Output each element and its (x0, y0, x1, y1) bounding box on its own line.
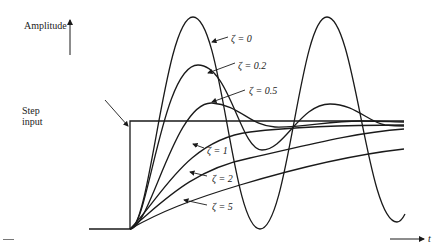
leader-zeta-0.5 (212, 90, 245, 102)
corner-mark (3, 239, 14, 240)
x-axis-label: t (428, 233, 431, 244)
step-input-label-line1: Step (22, 105, 43, 116)
curve-zeta-5 (130, 149, 404, 229)
label-zeta-0.2: ζ = 0.2 (238, 60, 266, 71)
leader-zeta-0.2 (208, 63, 235, 73)
curve-zeta-0 (130, 17, 405, 229)
step-response-diagram: Amplitude Step input ζ = 0 ζ = 0.2 ζ = 0… (0, 0, 442, 247)
label-zeta-5: ζ = 5 (212, 201, 233, 212)
label-zeta-0.5: ζ = 0.5 (249, 85, 277, 96)
y-axis-label: Amplitude (24, 20, 67, 31)
label-zeta-0: ζ = 0 (231, 33, 252, 44)
step-input-label-line2: input (22, 116, 43, 127)
label-zeta-1: ζ = 1 (207, 145, 228, 156)
step-input-label: Step input (22, 105, 43, 127)
curve-zeta-0.5 (130, 103, 404, 229)
leader-zeta-1 (193, 144, 204, 148)
label-zeta-2: ζ = 2 (212, 173, 233, 184)
step-input-line (130, 121, 404, 229)
leader-zeta-0 (212, 37, 228, 42)
leader-step (105, 100, 128, 126)
